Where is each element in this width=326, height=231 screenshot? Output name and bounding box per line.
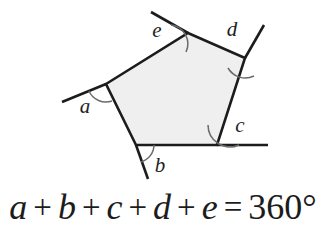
angle-label-b: b xyxy=(155,153,166,177)
equation-term-a: a xyxy=(9,189,27,225)
equation-term-c: c xyxy=(107,189,123,225)
equation-term-b: b xyxy=(58,189,76,225)
angle-label-c: c xyxy=(235,113,245,137)
equation-operator-1: + xyxy=(27,191,58,224)
angle-label-a: a xyxy=(80,94,91,118)
equation-result: 360° xyxy=(248,189,316,225)
equation-term-e: e xyxy=(202,189,218,225)
ray-d xyxy=(245,25,264,58)
equation-equals-sign: = xyxy=(218,191,249,224)
equation-operator-2: + xyxy=(76,191,107,224)
equation-term-d: d xyxy=(153,189,171,225)
pentagon-exterior-angle-diagram: a b c d e xyxy=(0,0,326,190)
pentagon-shape xyxy=(106,33,245,145)
figure-page: a b c d e a + b + c + d + e = 360° xyxy=(0,0,326,231)
arc-b xyxy=(141,145,154,162)
arc-a xyxy=(89,91,112,102)
angle-label-d: d xyxy=(227,17,238,41)
equation-operator-4: + xyxy=(171,191,202,224)
angle-sum-equation: a + b + c + d + e = 360° xyxy=(0,183,326,231)
angle-label-e: e xyxy=(152,18,161,42)
equation-operator-3: + xyxy=(122,191,153,224)
